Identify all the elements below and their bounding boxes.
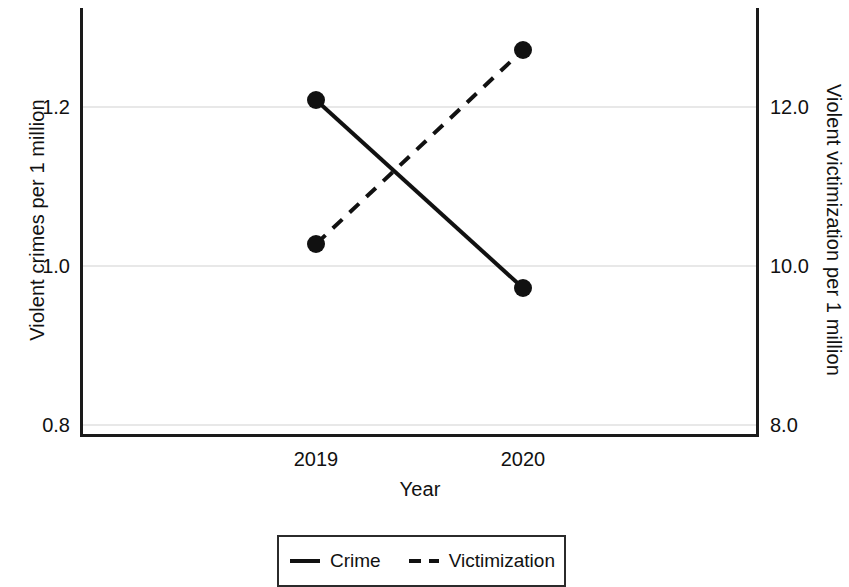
plot-area <box>80 8 759 437</box>
series-line-crime <box>316 100 523 288</box>
series-line-victimization <box>316 50 523 244</box>
legend-line-solid-icon <box>288 555 322 567</box>
x-axis-tick-label: 2019 <box>266 448 366 470</box>
legend-label-crime: Crime <box>330 550 381 572</box>
chart-legend: Crime Victimization <box>277 535 566 587</box>
y-axis-left-title: Violent crimes per 1 million <box>26 0 52 440</box>
legend-label-victimization: Victimization <box>449 550 555 572</box>
data-point-victimization-2019 <box>307 235 325 253</box>
y-axis-right-tick-label: 10.0 <box>770 255 849 277</box>
x-axis-title: Year <box>280 478 560 501</box>
x-axis-tick-label: 2020 <box>473 448 573 470</box>
y-axis-left-tick-label: 1.2 <box>0 96 70 118</box>
data-point-crime-2019 <box>307 91 325 109</box>
data-point-crime-2020 <box>514 279 532 297</box>
legend-entry-crime: Crime <box>288 550 381 572</box>
legend-line-dashed-icon <box>407 555 441 567</box>
y-axis-left-tick-label: 0.8 <box>0 414 70 436</box>
legend-entry-victimization: Victimization <box>407 550 555 572</box>
y-axis-right-title: Violent victimization per 1 million <box>819 10 845 450</box>
data-point-victimization-2020 <box>514 41 532 59</box>
y-axis-right-tick-label: 12.0 <box>770 96 849 118</box>
chart-figure: Violent crimes per 1 million Violent vic… <box>0 0 849 587</box>
y-axis-right-tick-label: 8.0 <box>770 414 849 436</box>
y-axis-left-tick-label: 1.0 <box>0 255 70 277</box>
